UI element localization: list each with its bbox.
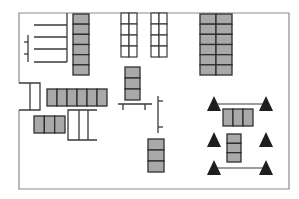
- shelf-cell: [148, 161, 164, 172]
- shelf-cell: [73, 34, 89, 44]
- shelf-cell: [216, 24, 232, 34]
- shelf-stack-lower-center: [148, 139, 164, 172]
- shelf-cell: [200, 55, 216, 65]
- shelf-cell: [57, 89, 67, 106]
- shelf-cell: [73, 45, 89, 55]
- rack-cell: [129, 35, 137, 46]
- shelf-cell: [243, 109, 253, 126]
- shelf-cell: [200, 34, 216, 44]
- shelf-column-top-left: [73, 14, 89, 75]
- shelf-cell: [216, 45, 232, 55]
- rack-cell: [121, 24, 129, 35]
- triangle-marker-icon: [207, 132, 221, 147]
- shelf-cell: [148, 150, 164, 161]
- shelf-cell: [148, 139, 164, 150]
- rack-cell: [151, 35, 159, 46]
- shelf-cell: [227, 153, 241, 162]
- open-cabinet-left: [19, 83, 40, 110]
- shelf-cell: [34, 116, 44, 133]
- shelf-cell: [44, 116, 54, 133]
- shelf-cell: [233, 109, 243, 126]
- shelf-row-right: [223, 109, 253, 126]
- rack-cell: [121, 35, 129, 46]
- shelf-cell: [55, 116, 65, 133]
- floor-plan: [0, 0, 299, 199]
- shelf-cell: [125, 67, 140, 78]
- shelf-cell: [216, 34, 232, 44]
- rack-cell: [159, 35, 167, 46]
- rack-cell: [151, 46, 159, 57]
- shelf-cell: [73, 65, 89, 75]
- shelf-row-lower-left: [34, 116, 65, 133]
- right-workstation-cluster: [207, 96, 273, 175]
- shelf-cell: [77, 89, 87, 106]
- shelf-cell: [200, 24, 216, 34]
- shelf-cell: [227, 134, 241, 143]
- rack-cell: [129, 13, 137, 24]
- rack-cell: [121, 13, 129, 24]
- shelf-cell: [216, 14, 232, 24]
- shelf-cell: [97, 89, 107, 106]
- rack-cell: [121, 46, 129, 57]
- rack-cell: [159, 24, 167, 35]
- shelf-row-middle: [47, 89, 107, 106]
- shelf-cell: [227, 143, 241, 152]
- rack-cell: [151, 24, 159, 35]
- rack-cell: [129, 24, 137, 35]
- shelf-cell: [73, 24, 89, 34]
- open-rack-right: [151, 13, 167, 57]
- shelf-block-top-right: [200, 14, 232, 75]
- shelf-stack-center: [125, 67, 140, 100]
- rack-cell: [159, 13, 167, 24]
- bench-center: [118, 104, 152, 110]
- shelf-cell: [216, 65, 232, 75]
- shelf-cell: [200, 65, 216, 75]
- shelf-cell: [73, 14, 89, 24]
- rack-cell: [151, 13, 159, 24]
- shelf-stack-right: [227, 134, 241, 162]
- shelf-cell: [200, 45, 216, 55]
- shelf-cell: [87, 89, 97, 106]
- coat-rack-comb: [24, 13, 67, 62]
- rack-cell: [129, 46, 137, 57]
- open-rack-left: [121, 13, 137, 57]
- post-center-right: [158, 96, 163, 133]
- shelf-cell: [47, 89, 57, 106]
- shelf-cell: [200, 14, 216, 24]
- rack-cell: [159, 46, 167, 57]
- shelf-cell: [216, 55, 232, 65]
- triangle-marker-icon: [259, 132, 273, 147]
- bracket-frame: [68, 110, 97, 140]
- shelf-cell: [73, 55, 89, 65]
- shelf-cell: [67, 89, 77, 106]
- shelf-cell: [125, 78, 140, 89]
- shelf-cell: [223, 109, 233, 126]
- bracket-unit-lower: [68, 110, 97, 140]
- shelf-cell: [125, 89, 140, 100]
